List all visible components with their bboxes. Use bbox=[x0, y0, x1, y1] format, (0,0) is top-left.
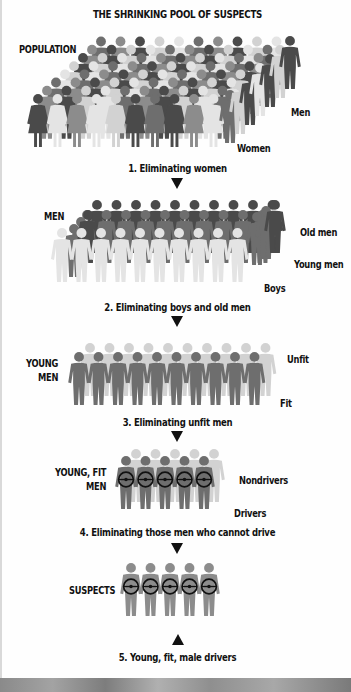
label-men-group: MEN bbox=[44, 210, 64, 222]
label-men: Men bbox=[291, 106, 310, 118]
step-4-caption: 4. Eliminating those men who cannot driv… bbox=[27, 526, 329, 539]
down-arrow-icon bbox=[171, 316, 183, 327]
label-young-men: Young men bbox=[294, 258, 343, 270]
step-2-caption: 2. Eliminating boys and old men bbox=[27, 301, 329, 314]
suspect-figure-icon bbox=[140, 563, 162, 616]
label-young-fit-men-line1: YOUNG, FIT bbox=[55, 466, 106, 478]
suspect-figure-icon bbox=[198, 563, 220, 616]
bottom-photo-strip bbox=[0, 678, 351, 692]
up-arrow-icon bbox=[172, 634, 184, 645]
infographic-frame: THE SHRINKING POOL OF SUSPECTS POPULATIO… bbox=[0, 0, 351, 678]
suspect-figure-icon bbox=[159, 563, 181, 616]
step-3-caption: 3. Eliminating unfit men bbox=[27, 416, 329, 429]
step-5-caption: 5. Young, fit, male drivers bbox=[27, 651, 329, 664]
step-1-caption: 1. Eliminating women bbox=[27, 162, 329, 175]
suspect-figure-icon bbox=[120, 563, 142, 616]
label-suspects: SUSPECTS bbox=[69, 584, 115, 596]
label-nondrivers: Nondrivers bbox=[239, 474, 288, 486]
label-young-men-group-line1: YOUNG bbox=[26, 357, 58, 369]
down-arrow-icon bbox=[171, 178, 183, 189]
label-young-men-group-line2: MEN bbox=[38, 371, 58, 383]
suspect-figure-icon bbox=[179, 563, 201, 616]
label-old-men: Old men bbox=[300, 226, 337, 238]
down-arrow-icon bbox=[171, 543, 183, 554]
figure-artwork bbox=[2, 0, 351, 678]
label-population: POPULATION bbox=[19, 43, 76, 55]
down-arrow-icon bbox=[171, 431, 183, 442]
label-boys: Boys bbox=[264, 282, 285, 294]
label-women: Women bbox=[237, 142, 270, 154]
label-drivers: Drivers bbox=[234, 507, 266, 519]
label-fit: Fit bbox=[280, 397, 292, 409]
label-unfit: Unfit bbox=[287, 353, 309, 365]
label-young-fit-men-line2: MEN bbox=[86, 480, 106, 492]
